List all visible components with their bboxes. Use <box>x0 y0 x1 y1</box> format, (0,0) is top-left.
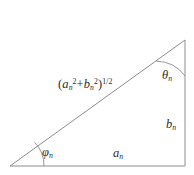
side-a-subscript: n <box>119 152 123 161</box>
angle-phi-label: φn <box>42 146 53 160</box>
hypotenuse-label: (an2+bn2)1/2 <box>58 78 113 92</box>
triangle-diagram: (an2+bn2)1/2 θn bn an φn <box>0 0 194 175</box>
angle-phi-subscript: n <box>49 151 53 160</box>
angle-theta-subscript: n <box>168 74 172 83</box>
hypotenuse-plus: + <box>77 77 84 91</box>
hypotenuse-outer-exponent: 1/2 <box>102 77 112 86</box>
angle-phi-symbol: φ <box>42 145 49 159</box>
angle-theta-label: θn <box>162 69 172 83</box>
side-a-label: an <box>113 147 123 161</box>
triangle-edge-hypotenuse <box>10 40 185 166</box>
side-b-label: bn <box>166 118 176 132</box>
side-b-subscript: n <box>172 123 176 132</box>
